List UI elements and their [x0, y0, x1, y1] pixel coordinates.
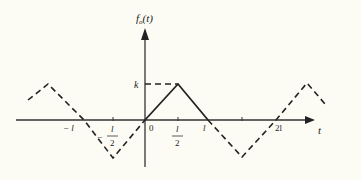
two-l-label: 2l	[275, 123, 283, 133]
l-label: l	[203, 123, 206, 133]
half-den: 2	[175, 138, 180, 148]
t-axis-arrow-icon	[305, 116, 315, 124]
solid-curve	[145, 84, 208, 120]
neg-l-label: − l	[63, 123, 74, 133]
neg-half-minus: −	[97, 132, 102, 142]
f-axis-arrow-icon	[141, 28, 149, 40]
y-axis-label: fo(t)	[136, 12, 153, 26]
neg-half-num: l	[111, 124, 114, 134]
x-axis-label: t	[318, 124, 322, 136]
odd-extension-diagram: fo(t) t k 0 − l − l 2 l 2 l 2l	[0, 0, 361, 180]
half-num: l	[176, 124, 179, 134]
dashed-extension-left	[28, 84, 145, 158]
zero-label: 0	[149, 123, 154, 133]
diagram-svg: fo(t) t k 0 − l − l 2 l 2 l 2l	[0, 0, 361, 180]
neg-half-den: 2	[110, 138, 115, 148]
k-label: k	[134, 79, 139, 90]
